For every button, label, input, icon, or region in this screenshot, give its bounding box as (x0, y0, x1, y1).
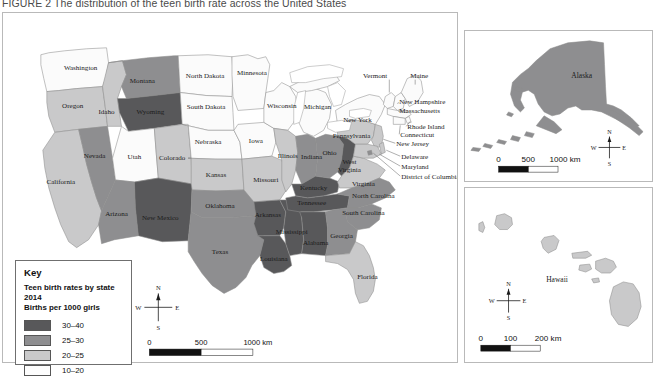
alaska-scale-tick-1000: 1000 km (549, 155, 580, 164)
state-minnesota[interactable] (232, 55, 270, 111)
label-arizona: Arizona (105, 210, 129, 218)
label-pennsylvania: Pennsylvania (333, 132, 371, 140)
alaska-compass-east: E (622, 145, 626, 151)
alaska-compass-south: S (608, 161, 612, 167)
hawaii-compass-west: W (489, 297, 495, 304)
label-north-carolina: North Carolina (352, 192, 395, 200)
alaska-aleutian-islands-5[interactable] (471, 147, 481, 151)
legend-subtitle-line1: Teen birth rates by state 2014 (24, 283, 124, 303)
alaska-aleutian-islands-3[interactable] (497, 140, 507, 145)
legend-label-20-25: 20–25 (62, 351, 84, 360)
label-rhode-island: Rhode Island (407, 123, 445, 131)
alaska-inset-canvas: Alaska N S E W 0 500 1000 km (465, 31, 652, 181)
label-nebraska: Nebraska (195, 138, 222, 146)
label-illinois: Illinois (278, 152, 298, 160)
label-vermont: Vermont (363, 72, 387, 80)
alaska-inset-panel: Alaska N S E W 0 500 1000 km (464, 30, 653, 182)
legend-swatch-30-40 (24, 320, 51, 331)
label-maryland: Maryland (401, 163, 429, 171)
legend-label-30-40: 30–40 (62, 321, 84, 330)
alaska-compass-north: N (607, 129, 612, 135)
hawaii-inset-panel: Hawaii N S E W 0 100 200 km (464, 187, 653, 363)
hawaii-island-maui[interactable] (596, 258, 617, 273)
label-mississippi: Mississippi (276, 228, 308, 236)
alaska-aleutian-islands-2[interactable] (511, 136, 521, 142)
label-kansas: Kansas (206, 171, 227, 179)
hawaii-island-kauai[interactable] (495, 214, 513, 230)
hawaii-island-niihau[interactable] (479, 222, 485, 233)
legend-swatch-10-20 (24, 365, 51, 376)
label-district-of-columbia: District of Columbia (401, 173, 457, 181)
hawaii-scale-tick-0: 0 (479, 334, 484, 343)
main-scale-bar: 0 500 1000 km (147, 338, 272, 355)
label-minnesota: Minnesota (237, 69, 268, 77)
label-south-carolina: South Carolina (342, 209, 385, 217)
legend-label-25-30: 25–30 (62, 336, 84, 345)
legend-row-10-20[interactable]: 10–20 (24, 363, 124, 378)
alaska-aleutian-islands-4[interactable] (483, 144, 493, 149)
map-legend: Key Teen birth rates by state 2014 Birth… (15, 260, 132, 365)
label-georgia: Georgia (330, 232, 353, 240)
label-wyoming: Wyoming (136, 108, 164, 116)
label-oklahoma: Oklahoma (205, 202, 235, 210)
alaska-scale-tick-500: 500 (522, 155, 536, 164)
main-scale-tick-500: 500 (195, 338, 208, 347)
compass-north-label: N (156, 284, 161, 291)
label-iowa: Iowa (249, 137, 264, 145)
hawaii-compass-south: S (507, 314, 511, 321)
label-idaho: Idaho (99, 108, 116, 116)
label-north-dakota: North Dakota (186, 72, 225, 80)
compass-east-label: E (175, 304, 179, 311)
hawaii-island-kahoolawe[interactable] (592, 278, 600, 283)
leader-maryland (379, 154, 400, 166)
label-new-hampshire: New Hampshire (399, 98, 445, 106)
compass-west-label: W (135, 304, 142, 311)
hawaii-scale-tick-100: 100 (504, 334, 518, 343)
main-scale-tick-0: 0 (147, 338, 151, 347)
hawaii-compass-east: E (522, 297, 526, 304)
label-ohio: Ohio (323, 149, 338, 157)
hawaii-scale-tick-200: 200 km (535, 334, 562, 343)
alaska-scale-tick-0: 0 (496, 155, 501, 164)
label-nevada: Nevada (84, 152, 106, 160)
alaska-aleutian-islands-1[interactable] (524, 132, 534, 138)
leader-new-jersey (383, 139, 395, 143)
legend-class-list: 30–40 25–30 20–25 10–20 (24, 318, 124, 378)
hawaii-island-lanai[interactable] (579, 264, 592, 272)
label-connecticut: Connecticut (400, 131, 434, 139)
label-missouri: Missouri (253, 176, 278, 184)
alaska-label: Alaska (571, 71, 593, 80)
legend-row-25-30[interactable]: 25–30 (24, 333, 124, 348)
hawaii-island-molokai[interactable] (572, 251, 592, 258)
figure-caption: FIGURE 2 The distribution of the teen bi… (2, 0, 652, 11)
label-texas: Texas (212, 248, 229, 256)
label-washington: Washington (64, 64, 98, 72)
hawaii-label: Hawaii (546, 275, 568, 284)
legend-row-30-40[interactable]: 30–40 (24, 318, 124, 333)
hawaii-island-oahu[interactable] (541, 235, 559, 253)
compass-south-label: S (156, 324, 160, 331)
legend-row-20-25[interactable]: 20–25 (24, 348, 124, 363)
label-alabama: Alabama (303, 239, 329, 247)
state-new-mexico[interactable] (134, 178, 192, 242)
alaska-compass-rose: N S E W (591, 129, 627, 167)
label-new-jersey: New Jersey (396, 140, 429, 148)
label-colorado: Colorado (159, 154, 186, 162)
legend-title: Key (24, 267, 124, 278)
legend-label-10-20: 10–20 (62, 366, 84, 375)
label-tennessee: Tennessee (297, 199, 326, 207)
label-massachusetts: Massachusetts (399, 107, 440, 115)
label-arkansas: Arkansas (255, 211, 281, 219)
alaska-island-2[interactable] (507, 112, 514, 117)
label-virginia: Virginia (352, 180, 376, 188)
alaska-aleutian-chain[interactable] (536, 116, 562, 134)
label-louisiana: Louisiana (260, 255, 289, 263)
main-map-panel: Washington Oregon California Nevada Idah… (2, 12, 458, 363)
legend-swatch-25-30 (24, 335, 51, 346)
hawaii-island-big-island[interactable] (609, 282, 641, 326)
label-michigan: Michigan (304, 103, 332, 111)
label-delaware: Delaware (401, 153, 428, 161)
alaska-map: Alaska N S E W 0 500 1000 km (465, 31, 652, 181)
state-district-of-columbia[interactable] (367, 150, 372, 155)
alaska-scale-bar: 0 500 1000 km (496, 155, 580, 172)
